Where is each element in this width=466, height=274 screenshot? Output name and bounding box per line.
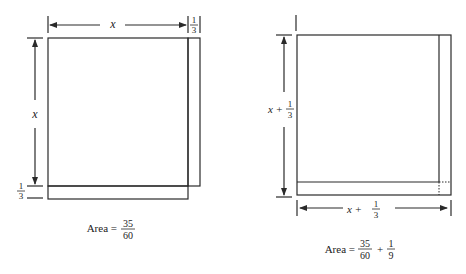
left-area-num: 35 [123, 218, 133, 229]
right-bottom-den: 3 [374, 210, 379, 220]
right-area-num2: 1 [389, 238, 394, 249]
left-square [48, 38, 188, 186]
left-top-strip-num: 1 [192, 15, 197, 25]
right-area-prefix: Area = [325, 243, 355, 255]
left-bottom-strip [48, 186, 188, 199]
left-top-strip-den: 3 [192, 25, 197, 35]
diagram-canvas: x 1 3 x 1 3 Area = 35 60 [0, 0, 466, 274]
right-side-den: 3 [288, 110, 293, 120]
right-bottom-num: 1 [374, 199, 379, 209]
left-side-label: x [31, 107, 38, 121]
right-square [297, 35, 451, 195]
left-right-strip [188, 38, 200, 186]
left-figure: x 1 3 x 1 3 Area = 35 60 [17, 15, 200, 241]
left-bottom-strip-num: 1 [19, 181, 24, 191]
right-side-label-var: x + [267, 103, 283, 115]
right-side-num: 1 [288, 99, 293, 109]
right-area-den: 60 [360, 250, 370, 261]
right-bottom-label-var: x + [346, 203, 362, 215]
right-figure: x + 1 3 x + 1 3 Area = 35 60 + 1 9 [267, 15, 451, 261]
left-area-den: 60 [123, 230, 133, 241]
right-area-plus: + [377, 243, 383, 255]
left-area-prefix: Area = [87, 222, 117, 234]
right-area-num: 35 [360, 238, 370, 249]
left-top-label: x [109, 17, 116, 31]
left-bottom-strip-den: 3 [19, 191, 24, 201]
right-area-den2: 9 [389, 250, 394, 261]
